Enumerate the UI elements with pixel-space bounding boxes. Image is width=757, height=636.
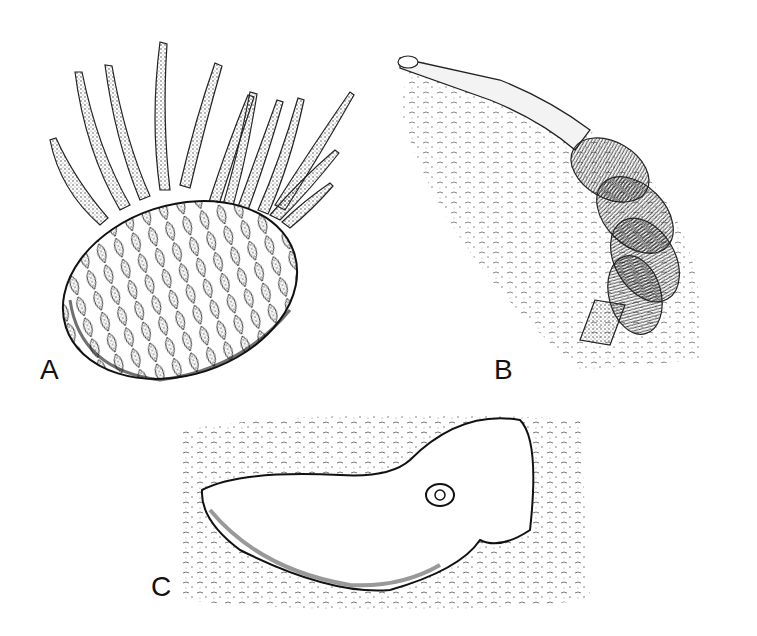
panel-label-a: A <box>40 356 59 384</box>
panel-label-b: B <box>494 356 513 384</box>
panel-b: B <box>380 0 757 400</box>
organism-b-drawing <box>380 0 757 400</box>
panel-c: C <box>140 400 610 636</box>
panel-a: A <box>0 0 380 400</box>
organism-a-drawing <box>0 0 380 400</box>
organism-c-drawing <box>140 400 610 636</box>
panel-label-c: C <box>151 573 171 601</box>
